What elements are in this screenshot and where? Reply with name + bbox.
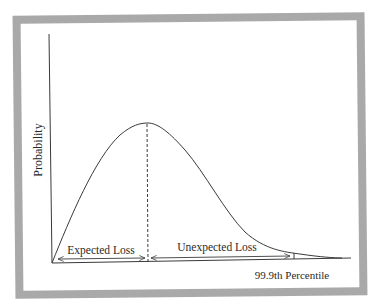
percentile-label: 99.9th Percentile	[255, 269, 330, 281]
unexpected-loss-arrow	[151, 256, 290, 258]
expected-loss-label: Expected Loss	[67, 244, 135, 257]
expected-loss-arrow	[58, 258, 145, 259]
y-axis-label: Probability	[31, 123, 45, 176]
mean-dashed-line	[147, 124, 148, 262]
diagram-canvas: Probability Expected Loss Unexpected Los…	[0, 0, 379, 307]
unexpected-loss-label: Unexpected Loss	[177, 241, 257, 254]
y-axis	[49, 34, 52, 263]
